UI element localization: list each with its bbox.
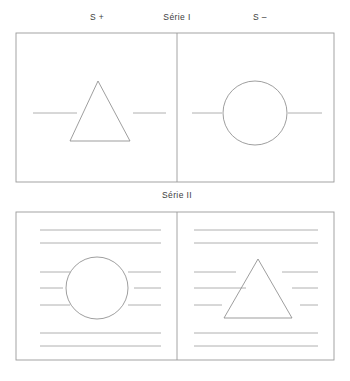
- figure-root: S + Série I S – Série II: [0, 0, 350, 381]
- figure-canvas: [0, 0, 350, 381]
- serie-2-frame: [16, 212, 334, 360]
- serie-2-group: [16, 212, 334, 360]
- serie-1-group: [16, 33, 334, 182]
